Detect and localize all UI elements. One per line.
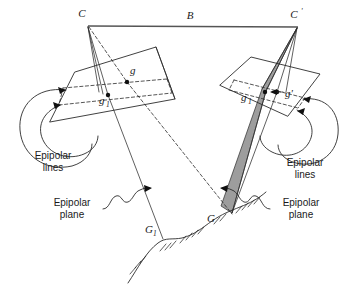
left-image-plane	[50, 47, 175, 122]
diagram-canvas: C B C ' g g 1 g 1 ' g' G G 1 Epipolar li…	[0, 0, 353, 284]
label-epipolar-lines-right-line1: Epipolar	[287, 157, 324, 168]
shaded-epipolar-plane-right	[221, 28, 297, 213]
label-epipolar-lines-right-line2: lines	[295, 169, 316, 180]
dot-g	[125, 80, 129, 84]
label-epipolar-plane-left-line1: Epipolar	[54, 197, 91, 208]
left-epipolar-plane-leader	[103, 185, 152, 209]
label-camera-right-prime: '	[301, 7, 303, 16]
right-image-plane	[220, 57, 320, 116]
diagram-labels: C B C ' g g 1 g 1 ' g' G G 1 Epipolar li…	[35, 7, 324, 238]
label-epipolar-lines-left-line1: Epipolar	[35, 150, 72, 161]
label-image-point-g1-prime: g	[241, 91, 247, 103]
label-epipolar-lines-left-line2: lines	[43, 162, 64, 173]
label-image-point-g: g	[130, 64, 136, 76]
label-epipolar-plane-right-line1: Epipolar	[283, 197, 320, 208]
dot-g1	[106, 93, 110, 97]
label-image-point-g1-prime-mark: '	[248, 86, 250, 95]
label-image-point-g1: g	[99, 94, 105, 106]
label-epipolar-plane-right-line2: plane	[289, 209, 314, 220]
terrain-profile	[128, 192, 266, 283]
left-camera-rays	[88, 27, 232, 239]
label-ground-point-G1-subscript: 1	[153, 229, 157, 238]
label-ground-point-G: G	[207, 212, 215, 224]
baseline-B	[88, 26, 298, 27]
label-camera-left: C	[78, 7, 86, 19]
dot-g1-prime	[263, 90, 267, 94]
left-epipolar-lines	[59, 79, 172, 105]
label-camera-right: C	[290, 8, 298, 20]
label-epipolar-plane-left-line2: plane	[60, 209, 85, 220]
label-image-point-g1-prime-subscript: 1	[248, 97, 252, 106]
label-baseline: B	[187, 9, 194, 21]
label-ground-point-G1: G	[145, 223, 153, 235]
label-image-point-g-prime: g'	[285, 87, 294, 99]
epipolar-geometry-diagram: C B C ' g g 1 g 1 ' g' G G 1 Epipolar li…	[0, 0, 353, 284]
label-image-point-g1-subscript: 1	[106, 100, 110, 109]
right-camera-rays	[232, 28, 297, 213]
